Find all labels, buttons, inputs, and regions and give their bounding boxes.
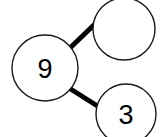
link-whole-to-part-2 — [69, 88, 99, 107]
whole-value: 9 — [37, 54, 52, 84]
number-bond-canvas: 9 3 — [0, 0, 161, 137]
number-bond-diagram: 9 3 — [0, 0, 161, 137]
part-circle-1[interactable] — [93, 0, 155, 60]
part-value-2: 3 — [118, 100, 133, 130]
